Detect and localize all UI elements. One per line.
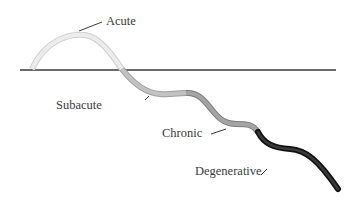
stage-degenerative-curve xyxy=(258,132,338,189)
label-subacute: Subacute xyxy=(56,98,102,112)
label-acute: Acute xyxy=(106,14,136,28)
chronic-leader-line xyxy=(211,129,226,134)
progression-diagram: Acute Subacute Chronic Degenerative xyxy=(0,0,355,201)
acute-leader-line xyxy=(79,22,102,31)
subacute-leader-line xyxy=(145,96,149,100)
stage-acute-curve xyxy=(32,35,122,69)
label-degenerative: Degenerative xyxy=(195,164,262,178)
label-chronic: Chronic xyxy=(162,126,203,140)
stage-subacute-curve xyxy=(122,69,186,94)
degenerative-leader-line xyxy=(261,169,267,175)
